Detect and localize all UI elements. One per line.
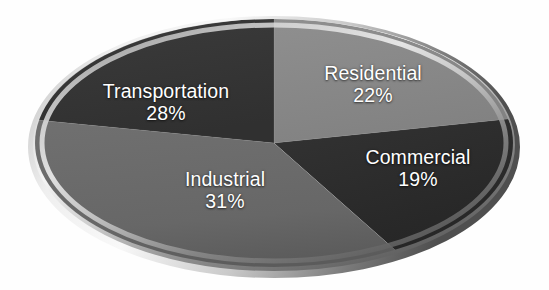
pie-chart-svg [0,0,549,290]
pie-chart-canvas [0,0,549,290]
pie-chart-figure: Residential 22% Commercial 19% Transport… [0,0,549,290]
